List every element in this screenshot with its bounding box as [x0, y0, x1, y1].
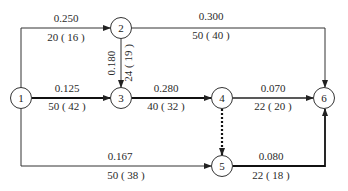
edge-1-2-top-label: 0.250 — [54, 12, 79, 24]
node-5: 5 — [212, 156, 233, 177]
edge-2-6: 0.300 50 ( 40 ) — [132, 10, 325, 87]
edge-2-3: 0.180 24 ( 19 ) — [105, 39, 135, 87]
node-5-label: 5 — [219, 160, 225, 172]
edge-1-3: 0.125 50 ( 42 ) — [32, 82, 110, 113]
edge-1-5-bottom-label: 50 ( 38 ) — [107, 169, 145, 182]
node-2-label: 2 — [118, 22, 124, 34]
edge-4-6-top-label: 0.070 — [261, 82, 286, 94]
edge-2-6-top-label: 0.300 — [199, 10, 224, 22]
node-2: 2 — [111, 18, 132, 39]
node-6-label: 6 — [321, 92, 327, 104]
edge-5-6: 0.080 22 ( 18 ) — [233, 109, 325, 182]
edge-2-6-bottom-label: 50 ( 40 ) — [192, 29, 230, 42]
edge-3-4-top-label: 0.280 — [154, 82, 179, 94]
node-3: 3 — [111, 88, 132, 109]
edge-5-6-top-label: 0.080 — [259, 150, 284, 162]
edge-1-3-top-label: 0.125 — [55, 82, 80, 94]
edge-4-6: 0.070 22 ( 20 ) — [233, 82, 313, 113]
node-4: 4 — [212, 88, 233, 109]
node-3-label: 3 — [118, 92, 124, 104]
edge-4-6-bottom-label: 22 ( 20 ) — [254, 100, 292, 113]
edge-3-4: 0.280 40 ( 32 ) — [132, 82, 211, 113]
edge-1-5-top-label: 0.167 — [108, 150, 133, 162]
edge-1-2: 0.250 20 ( 16 ) — [21, 12, 110, 88]
node-6: 6 — [314, 88, 335, 109]
edge-1-2-bottom-label: 20 ( 16 ) — [47, 31, 85, 44]
node-1-label: 1 — [18, 92, 24, 104]
edge-2-3-top-label: 0.180 — [105, 50, 117, 75]
edge-1-3-bottom-label: 50 ( 42 ) — [48, 100, 86, 113]
edge-5-6-bottom-label: 22 ( 18 ) — [252, 169, 290, 182]
edge-2-3-bottom-label: 24 ( 19 ) — [122, 44, 135, 82]
edge-3-4-bottom-label: 40 ( 32 ) — [147, 100, 185, 113]
node-4-label: 4 — [219, 92, 225, 104]
network-diagram: 0.250 20 ( 16 ) 0.300 50 ( 40 ) 0.180 24… — [0, 0, 348, 191]
node-1: 1 — [11, 88, 32, 109]
edge-1-5: 0.167 50 ( 38 ) — [21, 109, 211, 182]
